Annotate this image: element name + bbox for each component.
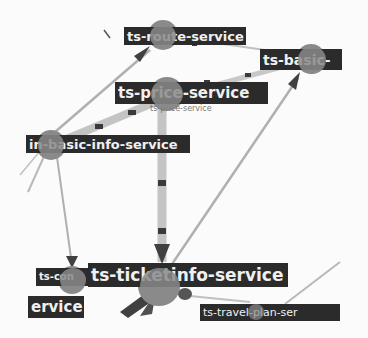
node-small-dot[interactable] [178, 288, 192, 300]
node-price-overlay [151, 79, 183, 109]
node-label-text: ts-route-service [127, 30, 244, 43]
label-ticketinfo-service[interactable]: ts-ticketinfo-service [88, 263, 288, 287]
node-route-overlay [150, 24, 176, 48]
label-travel-plan-service[interactable]: ts-travel-plan-ser [200, 304, 340, 321]
label-ervice[interactable]: ervice [28, 296, 84, 318]
label-price-service[interactable]: ts-price-service [115, 82, 268, 104]
node-con-overlay [60, 268, 86, 292]
traffic-dot [95, 124, 103, 129]
edge-stub [104, 30, 110, 38]
traffic-dot [128, 110, 136, 115]
node-basic-info-overlay [38, 132, 64, 158]
node-label-text: ts-price-service [118, 86, 249, 101]
node-label-text: ervice [31, 300, 83, 315]
edge-left-to-con[interactable] [56, 150, 72, 265]
edge-travel-out [285, 262, 340, 304]
node-travel-overlay [248, 304, 264, 320]
node-ticketinfo-overlay [140, 268, 180, 304]
traffic-dot [158, 180, 166, 186]
arrowhead-icon [134, 46, 150, 62]
node-label-text: ts-ticketinfo-service [91, 267, 283, 284]
traffic-dot [158, 228, 166, 234]
arrowhead-icon [154, 244, 170, 264]
edge-ticket-to-travel[interactable] [190, 296, 250, 302]
label-route-service[interactable]: ts-route-service [124, 27, 246, 45]
service-graph-canvas[interactable]: ts-route-service ts-basic- ts-price-serv… [0, 0, 368, 338]
arrowhead-icon [288, 72, 300, 90]
traffic-dot [245, 73, 251, 77]
node-basic-overlay [298, 46, 326, 74]
